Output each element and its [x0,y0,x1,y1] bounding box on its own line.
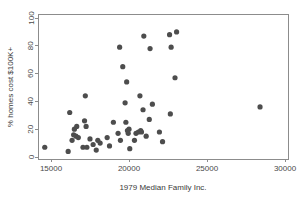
data-point [115,131,120,136]
y-tick-label: 0 [27,154,36,159]
data-point [126,127,131,132]
data-point [91,142,96,147]
data-point [257,104,262,109]
x-axis-tick-labels: 15000200002500030000 [40,164,297,173]
data-point [42,145,47,150]
data-point [84,145,89,150]
data-point [84,124,89,129]
data-point [94,147,99,152]
data-point [69,138,74,143]
data-point [83,93,88,98]
data-point [160,139,165,144]
x-tick-label: 30000 [274,164,297,173]
y-axis-tick-labels: 020406080100 [27,11,36,159]
data-point [123,120,128,125]
plot-canvas: 15000200002500030000 020406080100 1979 M… [0,0,305,201]
data-point [76,135,81,140]
x-tick-label: 15000 [40,164,63,173]
y-axis-title: % homes cost $100K+ [6,47,15,128]
data-point [157,129,162,134]
data-point [172,75,177,80]
data-point [105,135,110,140]
data-point [117,45,122,50]
data-point [118,138,123,143]
data-point [141,33,146,38]
data-point [111,120,116,125]
data-point [123,100,128,105]
data-point [74,124,79,129]
data-point [98,141,103,146]
data-point [169,45,174,50]
data-point [120,64,125,69]
data-point [132,138,137,143]
data-point [139,129,144,134]
data-point [137,93,142,98]
x-tick-label: 25000 [196,164,219,173]
scatter-plot-figure: 15000200002500030000 020406080100 1979 M… [0,0,305,201]
data-point [140,107,145,112]
data-point [167,32,172,37]
x-axis-title: 1979 Median Family Inc. [119,183,206,192]
data-point [150,102,155,107]
data-point [127,146,132,151]
data-point [124,79,129,84]
data-point [147,46,152,51]
data-point [168,111,173,116]
y-tick-label: 80 [27,41,36,50]
y-tick-label: 40 [27,96,36,105]
data-point [147,117,152,122]
data-point [67,110,72,115]
y-tick-label: 60 [27,69,36,78]
data-point [107,143,112,148]
data-point [87,136,92,141]
x-tick-label: 20000 [118,164,141,173]
data-points-layer [42,29,262,154]
data-point [144,134,149,139]
y-tick-label: 100 [27,11,36,25]
y-tick-label: 20 [27,124,36,133]
data-point [174,29,179,34]
data-point [66,149,71,154]
data-point [82,118,87,123]
